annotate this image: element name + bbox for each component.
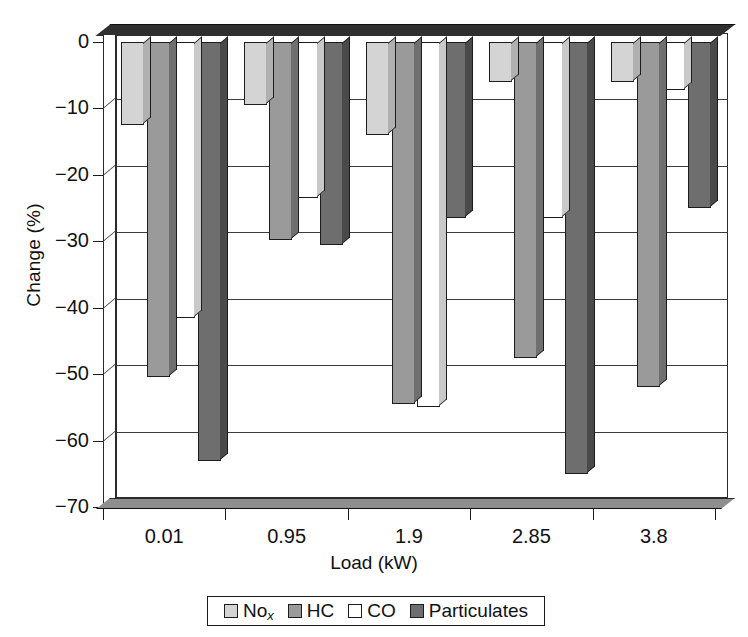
y-axis-tick-label: −20 [29,164,89,184]
x-axis-title: Load (kW) [0,552,748,574]
bar [637,42,660,387]
bar-side-face [266,36,274,104]
y-axis-tick-label: −70 [29,496,89,516]
bar [514,42,537,358]
legend-label: HC [307,600,334,622]
y-axis-tick-label: −40 [29,297,89,317]
x-axis-tick [715,509,716,520]
bar [121,42,144,125]
bar-side-face [684,36,692,89]
bar [366,42,389,135]
x-axis-tick-label: 2.85 [476,525,586,548]
x-axis-tick [470,509,471,520]
bar-side-face [342,36,350,243]
bar-side-face [169,36,177,376]
x-axis-tick-label: 1.9 [354,525,464,548]
bar-side-face [388,36,396,134]
legend-swatch [348,604,362,618]
bar-side-face [710,36,718,207]
bar-side-face [536,36,544,356]
x-axis-tick [348,509,349,520]
y-axis-tick-label: 0 [29,31,89,51]
legend-label: Particulates [429,600,528,622]
bar-side-face [317,36,325,197]
bar-side-face [194,36,202,316]
y-axis-tick [93,175,103,176]
x-axis-tick [225,509,226,520]
bar [489,42,512,82]
x-axis-tick [593,509,594,520]
plot-floor-slab [96,498,735,509]
bar-side-face [511,36,519,81]
bar [244,42,267,105]
bar-chart-figure: Change (%) 0−10−20−30−40−50−60−70 0.010.… [0,0,748,637]
legend-item: Nox [224,600,274,622]
legend-item: CO [348,600,396,622]
bar-side-face [220,36,228,459]
legend-label: CO [367,600,396,622]
y-axis-tick-label: −10 [29,97,89,117]
bar-side-face [414,36,422,403]
y-axis-tick [93,308,103,309]
bar-side-face [143,36,151,124]
bar-side-face [633,36,641,81]
y-axis-tick [93,374,103,375]
bar-side-face [562,36,570,217]
y-axis-tick [93,441,103,442]
bar-side-face [465,36,473,217]
legend-swatch [410,604,424,618]
chart-legend: NoxHCCOParticulates [207,596,545,626]
x-axis-tick [103,509,104,520]
bar-side-face [291,36,299,239]
y-axis-tick-label: −30 [29,230,89,250]
y-axis-tick [93,108,103,109]
legend-label: Nox [243,600,274,622]
y-axis-tick [93,42,103,43]
bar-side-face [439,36,447,406]
y-axis-tick-label: −50 [29,363,89,383]
y-axis-tick [93,241,103,242]
plot-top-slab [95,24,735,36]
x-axis-tick-label: 3.8 [599,525,709,548]
legend-item: HC [288,600,334,622]
bar-side-face [587,36,595,472]
plot-area: 0−10−20−30−40−50−60−70 0.010.951.92.853.… [103,33,728,508]
legend-swatch [224,604,238,618]
legend-label-subscript: x [267,608,274,623]
legend-item: Particulates [410,600,528,622]
x-axis-tick-label: 0.01 [109,525,219,548]
bar [611,42,634,82]
legend-swatch [288,604,302,618]
bar-side-face [659,36,667,386]
y-axis-tick-label: −60 [29,430,89,450]
x-axis-tick-label: 0.95 [232,525,342,548]
